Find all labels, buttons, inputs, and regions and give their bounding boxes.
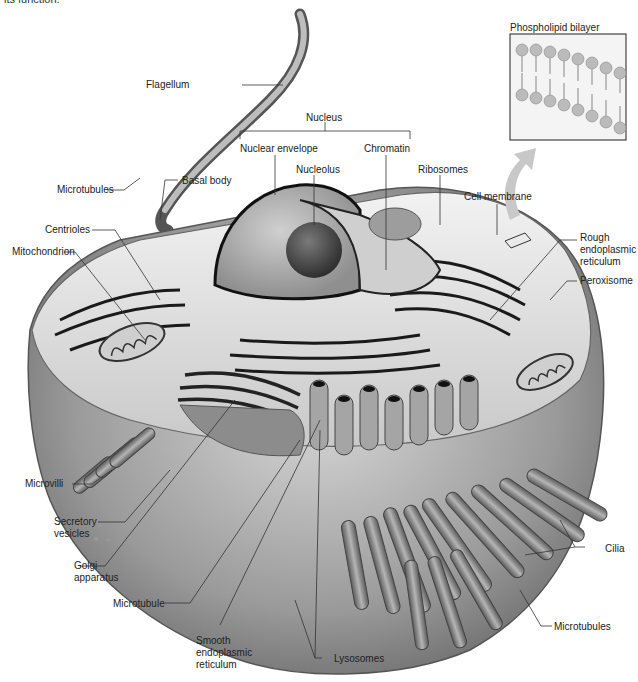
label-lysosomes: Lysosomes bbox=[334, 653, 384, 665]
label-flagellum: Flagellum bbox=[146, 79, 189, 91]
label-golgi-apparatus: Golgi apparatus bbox=[74, 560, 124, 584]
label-chromatin: Chromatin bbox=[364, 143, 410, 155]
label-microtubules-bottom: Microtubules bbox=[554, 621, 611, 633]
label-basal-body: Basal body bbox=[182, 175, 231, 187]
label-nuclear-envelope: Nuclear envelope bbox=[240, 143, 318, 155]
zoom-arrow-icon bbox=[505, 148, 536, 220]
label-microtubules-top: Microtubules bbox=[57, 184, 114, 196]
label-microvilli: Microvilli bbox=[25, 478, 63, 490]
label-nucleolus: Nucleolus bbox=[296, 164, 340, 176]
label-cilia: Cilia bbox=[605, 543, 624, 555]
label-centrioles: Centrioles bbox=[45, 224, 90, 236]
label-smooth-er: Smooth endoplasmic reticulum bbox=[196, 635, 258, 671]
label-nucleus: Nucleus bbox=[306, 112, 342, 124]
label-cell-membrane: Cell membrane bbox=[464, 191, 532, 203]
label-mitochondrion: Mitochondrion bbox=[12, 246, 75, 258]
label-peroxisome: Peroxisome bbox=[580, 275, 633, 287]
label-secretory-vesicles: Secretory vesicles bbox=[54, 516, 102, 540]
inset-title: Phospholipid bilayer bbox=[510, 22, 600, 33]
label-rough-er: Rough endoplasmic reticulum bbox=[580, 232, 638, 268]
phospholipid-bilayer-inset bbox=[510, 34, 626, 140]
label-microtubule: Microtubule bbox=[113, 598, 165, 610]
label-ribosomes: Ribosomes bbox=[418, 164, 468, 176]
